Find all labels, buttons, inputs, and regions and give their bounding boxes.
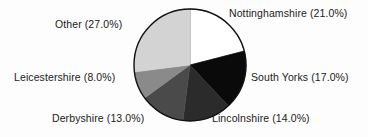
pie-label-other: Other (27.0%)	[55, 19, 122, 31]
pie-chart-figure: Nottinghamshire (21.0%) South Yorks (17.…	[0, 0, 368, 137]
pie-label-lincolnshire: Lincolnshire (14.0%)	[212, 113, 310, 125]
pie-slice-other[interactable]	[134, 9, 190, 72]
pie-label-leicestershire: Leicestershire (8.0%)	[14, 72, 115, 84]
pie-label-nottinghamshire: Nottinghamshire (21.0%)	[229, 8, 347, 20]
pie-label-derbyshire: Derbyshire (13.0%)	[52, 113, 144, 125]
pie-label-south-yorks: South Yorks (17.0%)	[251, 72, 349, 84]
